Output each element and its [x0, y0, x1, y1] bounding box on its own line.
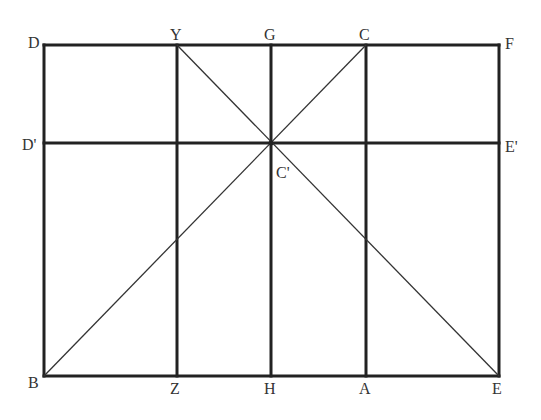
label-H: H — [264, 380, 276, 397]
label-B: B — [28, 374, 39, 391]
label-E: E — [492, 380, 502, 397]
diagonal-BC — [44, 45, 366, 376]
geometric-diagram: D Y G C F D' C' E' B Z H A E — [0, 0, 541, 420]
label-Z: Z — [170, 380, 180, 397]
label-Dprime: D' — [22, 136, 37, 153]
intersection-point-Cprime — [269, 141, 274, 146]
label-Eprime: E' — [505, 138, 518, 155]
label-D: D — [28, 34, 40, 51]
label-Y: Y — [170, 26, 182, 43]
diagonal-YE — [177, 45, 499, 376]
label-C: C — [359, 26, 370, 43]
label-G: G — [264, 26, 276, 43]
label-A: A — [359, 380, 371, 397]
label-Cprime: C' — [276, 164, 290, 181]
label-F: F — [505, 35, 514, 52]
